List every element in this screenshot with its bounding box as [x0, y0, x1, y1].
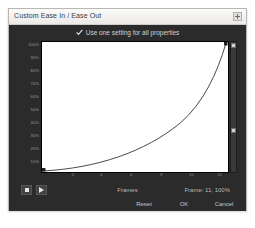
- reset-button[interactable]: Reset: [132, 201, 156, 207]
- x-axis-tick: 8: [160, 173, 162, 177]
- use-one-setting-label: Use one setting for all properties: [86, 29, 180, 36]
- cancel-button[interactable]: Cancel: [212, 201, 236, 207]
- close-icon[interactable]: [233, 12, 242, 21]
- transport-bar: Frames Frame: 11, 100%: [19, 185, 236, 196]
- x-axis-tick: 4: [100, 173, 102, 177]
- ease-curve-plot[interactable]: [41, 41, 229, 173]
- dialog-body: Use one setting for all properties 100% …: [9, 25, 246, 211]
- y-axis-tick: 20%: [31, 147, 39, 151]
- ease-curve-line: [42, 42, 228, 172]
- ease-value-rail[interactable]: [230, 41, 237, 173]
- x-axis-tick: 6: [130, 173, 132, 177]
- y-axis-tick: 50%: [31, 108, 39, 112]
- page-title: Custom Ease In / Ease Out: [14, 12, 101, 19]
- checkmark-icon: [76, 29, 83, 36]
- ease-handle-middle[interactable]: [231, 128, 236, 133]
- y-axis-tick: 70%: [31, 82, 39, 86]
- x-axis: 2 4 6 8 10 12: [41, 173, 229, 181]
- title-bar[interactable]: Custom Ease In / Ease Out: [9, 9, 246, 25]
- x-axis-tick: 12: [217, 173, 222, 177]
- y-axis-tick: 40%: [31, 121, 39, 125]
- y-axis-tick: 80%: [31, 69, 39, 73]
- ease-handle-top[interactable]: [231, 43, 236, 48]
- custom-ease-dialog: Custom Ease In / Ease Out Use one settin…: [8, 8, 247, 211]
- y-axis-tick: 60%: [31, 95, 39, 99]
- use-one-setting-checkbox[interactable]: Use one setting for all properties: [9, 29, 246, 36]
- frame-readout: Frame: 11, 100%: [184, 187, 230, 193]
- x-axis-tick: 10: [189, 173, 194, 177]
- ease-curve-editor[interactable]: 100% 90% 80% 70% 60% 50% 40% 30% 20% 10%: [19, 41, 237, 183]
- y-axis-tick: 100%: [28, 43, 39, 47]
- x-axis-tick: 2: [72, 173, 74, 177]
- y-axis-tick: 90%: [31, 56, 39, 60]
- y-axis: 100% 90% 80% 70% 60% 50% 40% 30% 20% 10%: [19, 41, 41, 173]
- ok-button[interactable]: OK: [172, 201, 196, 207]
- y-axis-tick: 10%: [31, 160, 39, 164]
- y-axis-tick: 30%: [31, 134, 39, 138]
- dialog-button-row: Reset OK Cancel: [132, 201, 236, 207]
